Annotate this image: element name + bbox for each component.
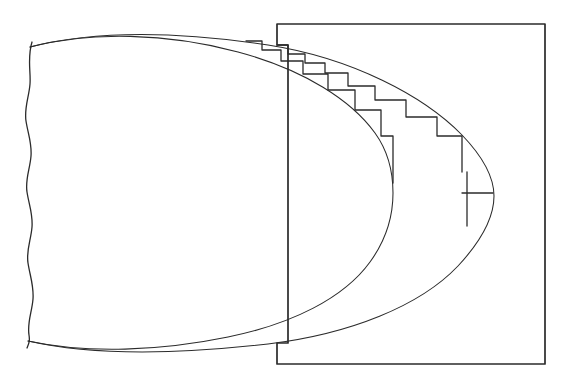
line-drawing-svg: [0, 0, 572, 387]
diagram-canvas: [0, 0, 572, 387]
